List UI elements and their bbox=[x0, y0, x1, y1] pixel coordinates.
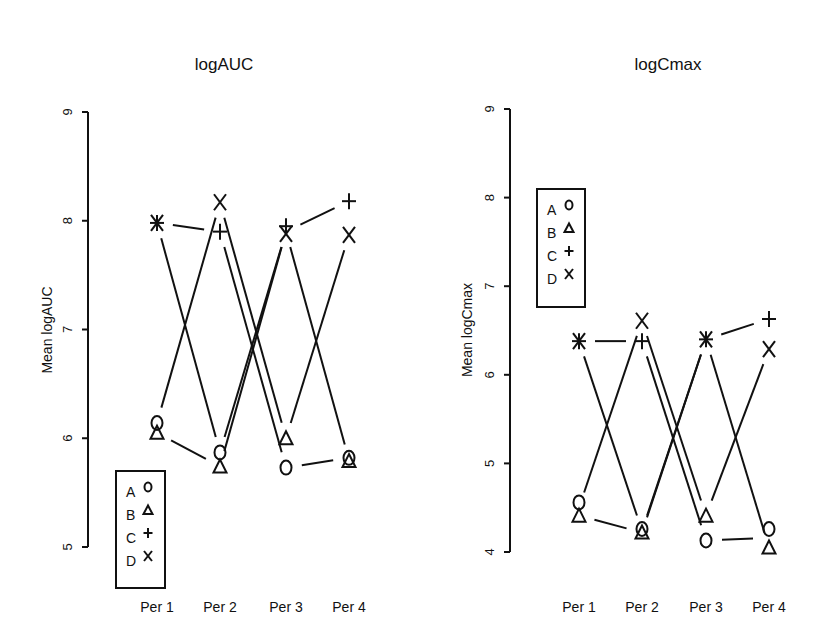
triangle-marker-icon bbox=[144, 506, 153, 515]
x-axis-tick-labels: Per 1Per 2Per 3Per 4 bbox=[562, 599, 786, 615]
y-tick-label: 9 bbox=[60, 108, 75, 115]
legend-label: C bbox=[126, 530, 136, 546]
legend: ABCD bbox=[537, 189, 585, 307]
chart-title: logCmax bbox=[634, 55, 702, 74]
x-marker-icon bbox=[636, 313, 648, 329]
circle-marker-icon bbox=[764, 522, 775, 536]
x-tick-label: Per 3 bbox=[689, 599, 723, 615]
y-tick-label: 5 bbox=[60, 543, 75, 550]
y-tick-label: 5 bbox=[482, 460, 497, 467]
circle-marker-icon bbox=[281, 461, 292, 475]
chart-title: logAUC bbox=[195, 55, 254, 74]
sequence-line-segment bbox=[584, 356, 637, 515]
y-axis-label: Mean logAUC bbox=[39, 286, 55, 373]
legend-box bbox=[116, 471, 165, 588]
triangle-marker-icon bbox=[214, 460, 227, 473]
panel-logcmax: logCmax Mean logCmax 456789 Per 1Per 2Pe… bbox=[459, 55, 786, 615]
plus-marker-icon bbox=[213, 224, 227, 240]
legend: ABCD bbox=[116, 471, 165, 588]
y-tick-label: 7 bbox=[482, 283, 497, 290]
x-tick-label: Per 2 bbox=[625, 599, 659, 615]
y-axis: 56789 bbox=[60, 108, 88, 550]
x-tick-label: Per 3 bbox=[269, 599, 303, 615]
triangle-marker-icon bbox=[573, 509, 586, 522]
y-tick-label: 4 bbox=[482, 548, 497, 555]
x-tick-label: Per 1 bbox=[562, 599, 596, 615]
sequence-line-segment bbox=[584, 336, 637, 493]
circle-marker-icon bbox=[215, 445, 226, 459]
legend-label: C bbox=[547, 248, 557, 264]
legend-label: B bbox=[547, 225, 556, 241]
figure: logAUC Mean logAUC 56789 Per 1Per 2Per 3… bbox=[0, 0, 821, 640]
legend-box bbox=[537, 189, 585, 307]
sequence-line-segment bbox=[171, 440, 206, 459]
x-marker-icon bbox=[763, 341, 775, 357]
x-tick-label: Per 2 bbox=[203, 599, 237, 615]
sequence-line-segment bbox=[721, 324, 754, 335]
sequence-line-segment bbox=[594, 520, 626, 529]
x-axis-tick-labels: Per 1Per 2Per 3Per 4 bbox=[140, 599, 366, 615]
sequence-line-segment bbox=[302, 460, 333, 465]
circle-marker-icon bbox=[566, 201, 573, 210]
x-tick-label: Per 1 bbox=[140, 599, 174, 615]
x-marker-icon bbox=[565, 269, 573, 279]
circle-marker-icon bbox=[701, 533, 712, 547]
chart-canvas: logAUC Mean logAUC 56789 Per 1Per 2Per 3… bbox=[0, 0, 821, 640]
x-marker-icon bbox=[343, 227, 355, 243]
x-tick-label: Per 4 bbox=[752, 599, 786, 615]
sequence-line-segment bbox=[300, 208, 334, 225]
plus-marker-icon bbox=[144, 528, 153, 538]
legend-label: D bbox=[547, 271, 557, 287]
y-tick-label: 6 bbox=[60, 435, 75, 442]
y-tick-label: 9 bbox=[482, 105, 497, 112]
y-axis: 456789 bbox=[482, 105, 510, 555]
plus-marker-icon bbox=[762, 311, 776, 327]
x-marker-icon bbox=[144, 551, 152, 561]
sequence-line-segment bbox=[161, 238, 216, 437]
sequence-line-segment bbox=[647, 336, 701, 501]
y-tick-label: 7 bbox=[60, 326, 75, 333]
y-axis-label: Mean logCmax bbox=[459, 283, 475, 377]
sequence-line-segment bbox=[224, 218, 281, 423]
y-tick-label: 8 bbox=[60, 217, 75, 224]
legend-label: A bbox=[126, 484, 136, 500]
sequence-lines bbox=[584, 324, 764, 540]
panel-logauc: logAUC Mean logAUC 56789 Per 1Per 2Per 3… bbox=[39, 55, 366, 615]
x-tick-label: Per 4 bbox=[332, 599, 366, 615]
legend-label: B bbox=[126, 507, 135, 523]
data-markers bbox=[150, 193, 356, 474]
triangle-marker-icon bbox=[280, 431, 293, 444]
sequence-line-segment bbox=[161, 218, 215, 408]
y-tick-label: 8 bbox=[482, 194, 497, 201]
triangle-marker-icon bbox=[763, 541, 776, 554]
y-tick-label: 6 bbox=[482, 371, 497, 378]
legend-label: A bbox=[547, 202, 557, 218]
triangle-marker-icon bbox=[700, 509, 713, 522]
legend-label: D bbox=[126, 553, 136, 569]
triangle-marker-icon bbox=[565, 224, 574, 233]
plus-marker-icon bbox=[342, 193, 356, 209]
sequence-line-segment bbox=[722, 538, 753, 539]
x-marker-icon bbox=[214, 194, 226, 210]
plus-marker-icon bbox=[635, 333, 649, 349]
sequence-lines bbox=[161, 208, 345, 465]
circle-marker-icon bbox=[145, 483, 152, 492]
plus-marker-icon bbox=[565, 246, 574, 256]
sequence-line-segment bbox=[173, 225, 204, 229]
